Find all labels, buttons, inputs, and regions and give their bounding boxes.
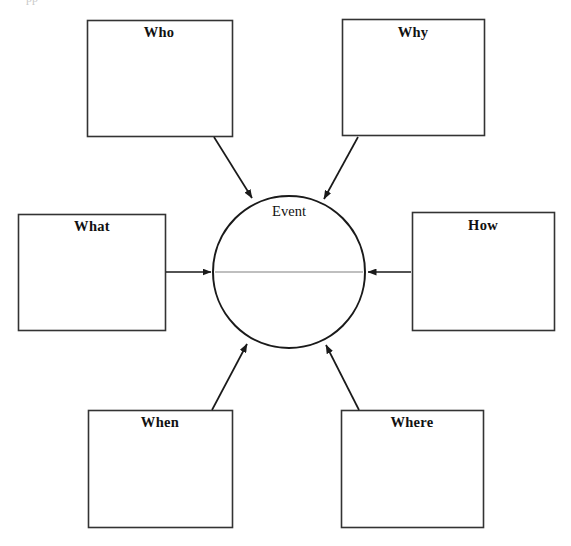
box-why[interactable]: [343, 20, 485, 136]
box-when[interactable]: [89, 411, 233, 528]
diagram-graphics: [0, 0, 571, 546]
arrow-why-to-event: [324, 137, 358, 199]
box-what[interactable]: [19, 215, 166, 331]
arrow-who-to-event: [214, 137, 252, 198]
diagram-canvas: pp WhoWhyWhatHowWhenWhereEvent: [0, 0, 571, 546]
box-where[interactable]: [342, 411, 484, 528]
center-circle-group: [213, 196, 365, 348]
arrow-when-to-event: [212, 344, 247, 410]
box-who[interactable]: [88, 21, 233, 137]
arrow-where-to-event: [326, 345, 359, 410]
box-how[interactable]: [413, 213, 555, 331]
